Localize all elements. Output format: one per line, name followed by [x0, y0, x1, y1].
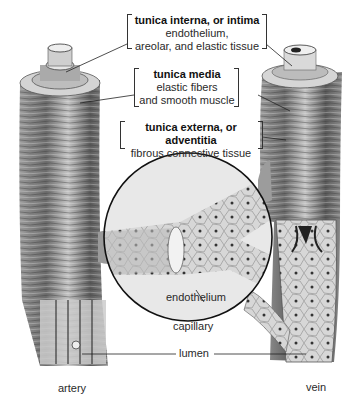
label-capillary: capillary: [173, 320, 213, 332]
label-lumen: lumen: [179, 347, 209, 359]
label-line: endothelium,: [130, 27, 264, 40]
label-line: and smooth muscle: [138, 94, 236, 107]
label-vein: vein: [306, 381, 326, 393]
label-artery: artery: [58, 382, 86, 394]
label-tunica-externa: tunica externa, or adventitia fibrous co…: [123, 121, 259, 160]
label-title: tunica media: [138, 68, 236, 81]
label-tunica-interna: tunica interna, or intima endothelium, a…: [130, 14, 264, 53]
label-title: tunica interna, or intima: [130, 14, 264, 27]
label-endothelium: endothelium: [166, 291, 226, 303]
artery-vessel: [19, 44, 120, 366]
label-line: areolar, and elastic tissue: [130, 40, 264, 53]
label-line: fibrous connective tissue: [123, 147, 259, 160]
label-line: elastic fibers: [138, 81, 236, 94]
label-tunica-media: tunica media elastic fibers and smooth m…: [138, 68, 236, 107]
label-title: tunica externa, or adventitia: [123, 121, 259, 147]
vessel-illustration: [0, 0, 355, 404]
